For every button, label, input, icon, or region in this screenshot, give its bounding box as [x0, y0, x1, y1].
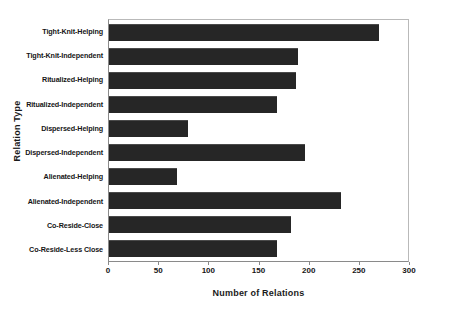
bar [109, 72, 296, 89]
bar-row [109, 92, 408, 116]
x-axis-tick-mark [108, 262, 109, 265]
y-axis-tick-label: Alienated-Independent [24, 189, 106, 213]
plot-area [108, 19, 409, 262]
bar [109, 240, 277, 257]
x-axis-tick-mark [208, 262, 209, 265]
y-axis-tick-label: Dispersed-Helping [24, 116, 106, 140]
y-axis-tick-label: Ritualized-Helping [24, 68, 106, 92]
x-axis-tick-label: 300 [402, 266, 415, 275]
y-axis-tick-labels: Tight-Knit-HelpingTight-Knit-Independent… [24, 19, 106, 262]
bar [109, 192, 341, 209]
bar [109, 48, 298, 65]
x-axis-tick-mark [359, 262, 360, 265]
x-axis-tick-mark [409, 262, 410, 265]
x-axis-tick-mark [259, 262, 260, 265]
y-axis-tick-label: Ritualized-Independent [24, 92, 106, 116]
bar-row [109, 237, 408, 261]
y-axis-tick-label: Co-Reside-Close [24, 213, 106, 237]
x-axis-tick-label: 250 [352, 266, 365, 275]
x-axis: 050100150200250300 [108, 262, 409, 284]
y-axis-tick-label: Co-Reside-Less Close [24, 238, 106, 262]
bar [109, 96, 277, 113]
bar-row [109, 116, 408, 140]
bar-row [109, 68, 408, 92]
x-axis-tick-label: 50 [154, 266, 163, 275]
bar-row [109, 189, 408, 213]
bar [109, 144, 305, 161]
bar-chart: Relation Type Tight-Knit-HelpingTight-Kn… [0, 0, 453, 313]
bars-layer [109, 20, 408, 261]
bar-row [109, 44, 408, 68]
bar-row [109, 140, 408, 164]
x-axis-tick-label: 0 [106, 266, 110, 275]
x-axis-title: Number of Relations [108, 288, 409, 298]
x-axis-tick-label: 150 [252, 266, 265, 275]
x-axis-tick-mark [158, 262, 159, 265]
bar-row [109, 165, 408, 189]
y-axis-tick-label: Dispersed-Independent [24, 140, 106, 164]
x-axis-tick-label: 100 [202, 266, 215, 275]
bar [109, 216, 291, 233]
x-axis-tick-mark [309, 262, 310, 265]
bar-row [109, 20, 408, 44]
y-axis-title-text: Relation Type [12, 101, 22, 162]
y-axis-tick-label: Alienated-Helping [24, 165, 106, 189]
bar-row [109, 213, 408, 237]
x-axis-tick-label: 200 [302, 266, 315, 275]
y-axis-tick-label: Tight-Knit-Independent [24, 43, 106, 67]
y-axis-tick-label: Tight-Knit-Helping [24, 19, 106, 43]
bar [109, 168, 177, 185]
bar [109, 120, 188, 137]
bar [109, 24, 379, 41]
